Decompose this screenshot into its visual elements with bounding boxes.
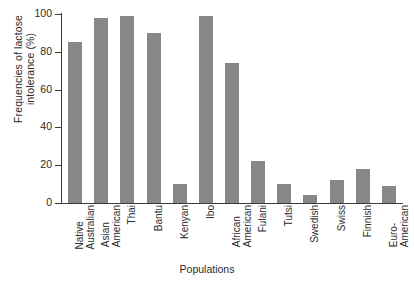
x-tick-label-line: Fulani <box>258 205 269 232</box>
bar <box>356 169 370 203</box>
bar <box>277 184 291 203</box>
bar <box>199 16 213 203</box>
x-tick-label-slot: Fulani <box>245 205 271 261</box>
bar <box>173 184 187 203</box>
y-tick-mark <box>55 52 62 53</box>
bar-slot <box>114 14 140 203</box>
x-tick-label-line: Kenyan <box>180 205 191 239</box>
x-tick-label-line: Thai <box>127 205 138 224</box>
x-tick-label-line: Swiss <box>337 205 348 231</box>
bar-slot <box>88 14 114 203</box>
x-tick-label-slot: Bantu <box>140 205 166 261</box>
x-tick-label-slot: AfricanAmerican <box>219 205 245 261</box>
y-tick-mark <box>55 90 62 91</box>
lactose-intolerance-bar-chart: Frequencies of lactose intolerance (%) 0… <box>0 0 414 283</box>
bar-slot <box>219 14 245 203</box>
bar-slot <box>376 14 402 203</box>
y-tick-mark <box>55 203 62 204</box>
x-tick-label-slot: Thai <box>114 205 140 261</box>
x-tick-label-line: Ibo <box>206 205 217 219</box>
bar-slot <box>140 14 166 203</box>
x-tick-label-line: Euro- <box>389 205 400 247</box>
y-tick-label: 40 <box>14 120 52 132</box>
bar-slot <box>324 14 350 203</box>
y-tick-mark <box>55 14 62 15</box>
bar <box>147 33 161 203</box>
bar <box>330 180 344 203</box>
y-tick-label: 0 <box>14 196 52 208</box>
bar <box>251 161 265 203</box>
bars-group <box>62 14 402 203</box>
bar <box>225 63 239 203</box>
bar <box>382 186 396 203</box>
x-tick-label-line: Finnish <box>363 205 374 237</box>
x-tick-label-line: African <box>232 205 243 247</box>
x-axis-ticks: NativeAustralianAsianAmericanThaiBantuKe… <box>62 205 402 261</box>
bar-slot <box>245 14 271 203</box>
x-axis-line <box>61 203 403 204</box>
x-tick-label-slot: Euro-American <box>376 205 402 261</box>
bar <box>303 195 317 203</box>
bar <box>120 16 134 203</box>
bar-slot <box>62 14 88 203</box>
x-tick-label-slot: Swiss <box>324 205 350 261</box>
bar-slot <box>271 14 297 203</box>
x-axis-title: Populations <box>0 263 414 275</box>
y-tick-label: 80 <box>14 45 52 57</box>
bar-slot <box>193 14 219 203</box>
bar <box>68 42 82 203</box>
x-tick-label-slot: NativeAustralian <box>62 205 88 261</box>
bar-slot <box>350 14 376 203</box>
x-tick-label-line: American <box>399 205 410 247</box>
x-tick-label-slot: Swedish <box>297 205 323 261</box>
y-tick-mark <box>55 165 62 166</box>
x-tick-label-slot: AsianAmerican <box>88 205 114 261</box>
bar-slot <box>297 14 323 203</box>
y-tick-label: 60 <box>14 83 52 95</box>
x-tick-label-line: Tutsi <box>284 205 295 226</box>
x-tick-label-line: Swedish <box>310 205 321 243</box>
bar-slot <box>167 14 193 203</box>
x-tick-label-line: Native <box>75 205 86 249</box>
y-tick-mark <box>55 127 62 128</box>
x-tick-label-slot: Tutsi <box>271 205 297 261</box>
x-tick-label-line: Bantu <box>154 205 165 231</box>
bar <box>94 18 108 203</box>
x-tick-label-slot: Kenyan <box>167 205 193 261</box>
x-tick-label-slot: Finnish <box>350 205 376 261</box>
y-tick-label: 20 <box>14 158 52 170</box>
x-tick-label-slot: Ibo <box>193 205 219 261</box>
y-tick-label: 100 <box>14 7 52 19</box>
